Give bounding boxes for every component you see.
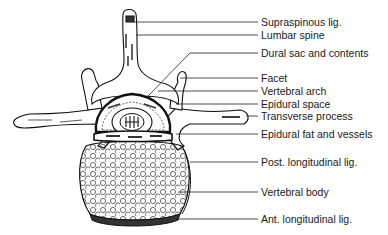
label-transverse-process: Transverse process (261, 110, 353, 122)
label-dural-sac: Dural sac and contents (261, 47, 368, 59)
transverse-process-right (166, 108, 249, 150)
label-vertebral-arch: Vertebral arch (261, 85, 326, 97)
label-post-longitudinal-lig: Post. longitudinal lig. (261, 156, 357, 168)
epidural-fat (94, 131, 172, 142)
label-supraspinous-lig: Supraspinous lig. (261, 16, 342, 28)
label-facet: Facet (261, 72, 287, 84)
label-ant-longitudinal-lig: Ant. longitudinal lig. (261, 213, 352, 225)
vertebral-arch (92, 10, 179, 105)
label-vertebral-body: Vertebral body (261, 186, 329, 198)
label-epidural-space: Epidural space (261, 98, 330, 110)
label-epidural-fat: Epidural fat and vessels (261, 128, 372, 140)
spinal-canal (96, 94, 170, 136)
vertebral-body-shape (80, 142, 191, 227)
label-lumbar-spine: Lumbar spine (261, 29, 325, 41)
